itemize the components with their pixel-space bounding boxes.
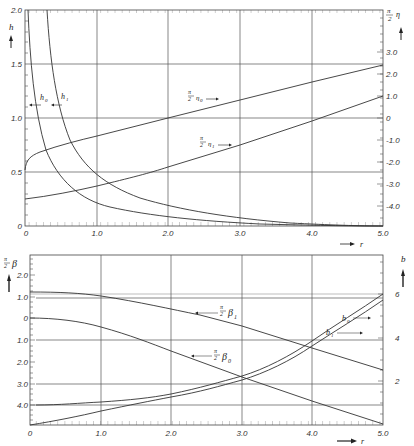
svg-text:η: η bbox=[396, 10, 400, 19]
svg-text:-4.0: -4.0 bbox=[386, 202, 400, 211]
bottom-y-left-ticks: 2.0 1.0 0 1.0 2.0 3.0 4.0 bbox=[16, 271, 29, 410]
svg-text:0: 0 bbox=[28, 429, 33, 438]
svg-text:2: 2 bbox=[388, 15, 392, 23]
svg-text:3.0: 3.0 bbox=[236, 429, 248, 438]
svg-text:1: 1 bbox=[212, 144, 215, 149]
top-x-minor-ticks-upper bbox=[25, 10, 383, 13]
top-x-ticks: 0 1.0 2.0 3.0 4.0 5.0 bbox=[24, 229, 389, 238]
svg-text:2: 2 bbox=[220, 311, 223, 317]
svg-text:-3.0: -3.0 bbox=[386, 180, 400, 189]
svg-text:2.0: 2.0 bbox=[164, 429, 177, 438]
svg-text:5.0: 5.0 bbox=[377, 229, 389, 238]
svg-text:4.0: 4.0 bbox=[306, 229, 318, 238]
svg-text:1.0: 1.0 bbox=[11, 114, 23, 123]
right-arrow-icon bbox=[351, 439, 357, 444]
svg-text:1: 1 bbox=[234, 314, 237, 320]
svg-text:1: 1 bbox=[66, 97, 69, 102]
svg-text:4.0: 4.0 bbox=[17, 401, 29, 410]
svg-text:1.0: 1.0 bbox=[386, 92, 398, 101]
svg-text:2: 2 bbox=[200, 142, 203, 148]
svg-text:3.0: 3.0 bbox=[386, 48, 398, 57]
svg-text:π: π bbox=[4, 256, 8, 262]
svg-text:0: 0 bbox=[24, 314, 29, 323]
svg-text:b: b bbox=[326, 328, 330, 337]
svg-text:π: π bbox=[214, 348, 218, 354]
svg-text:h: h bbox=[40, 93, 44, 102]
bottom-x-minor-ticks bbox=[30, 421, 383, 425]
bottom-x-ticks: 0 1.0 2.0 3.0 4.0 5.0 bbox=[28, 429, 389, 438]
svg-text:0.5: 0.5 bbox=[11, 168, 23, 177]
top-right-up-arrow-icon bbox=[399, 27, 403, 40]
top-right-axis-label: π 2 η bbox=[386, 7, 400, 23]
bottom-y-right-ticks: 6 4 2 bbox=[394, 290, 400, 386]
svg-text:h: h bbox=[61, 92, 65, 101]
svg-text:β: β bbox=[227, 307, 233, 318]
label-beta1: π 2 β 1 bbox=[195, 304, 237, 320]
svg-text:0: 0 bbox=[24, 229, 29, 238]
svg-text:1.0: 1.0 bbox=[95, 429, 107, 438]
top-x-axis-label: r bbox=[340, 240, 364, 249]
label-eta1: π 2 η 1 bbox=[200, 135, 232, 149]
svg-text:1.0: 1.0 bbox=[17, 336, 29, 345]
bottom-y-axis-label-beta: π 2 β bbox=[4, 256, 17, 269]
svg-text:3.0: 3.0 bbox=[234, 229, 246, 238]
figure: 0 0.5 1.0 1.5 2.0 0 1.0 2.0 3.0 4.0 5.0 … bbox=[0, 0, 414, 446]
top-y-right-ticks: 3.0 2.0 1.0 0 -1.0 -2.0 -3.0 -4.0 bbox=[385, 48, 400, 211]
svg-text:4.0: 4.0 bbox=[306, 429, 318, 438]
svg-text:2.0: 2.0 bbox=[16, 271, 29, 280]
svg-text:4: 4 bbox=[395, 334, 400, 343]
svg-text:1.5: 1.5 bbox=[11, 60, 23, 69]
label-h1: h 1 bbox=[51, 92, 69, 107]
label-eta0: π 2 η 0 bbox=[188, 89, 219, 103]
svg-text:1.0: 1.0 bbox=[91, 229, 103, 238]
bottom-y-up-arrow-icon bbox=[7, 274, 11, 292]
svg-text:6: 6 bbox=[395, 290, 400, 299]
svg-text:2: 2 bbox=[188, 96, 191, 102]
bottom-right-axis-label-b: b bbox=[401, 254, 406, 264]
bottom-y-right-minor-ticks bbox=[378, 262, 383, 414]
svg-text:0: 0 bbox=[347, 319, 350, 324]
label-h0: h 0 bbox=[29, 93, 48, 107]
curve-b1 bbox=[30, 300, 383, 425]
bottom-chart: 2.0 1.0 0 1.0 2.0 3.0 4.0 0 1.0 2.0 3.0 … bbox=[4, 254, 406, 446]
svg-text:-2.0: -2.0 bbox=[386, 158, 400, 167]
svg-text:3.0: 3.0 bbox=[17, 380, 29, 389]
svg-text:β: β bbox=[11, 258, 17, 269]
svg-text:2.0: 2.0 bbox=[10, 6, 23, 15]
svg-text:0: 0 bbox=[386, 114, 391, 123]
svg-text:π: π bbox=[188, 89, 192, 95]
svg-text:-1.0: -1.0 bbox=[386, 136, 400, 145]
label-b0: b 0 bbox=[342, 314, 371, 324]
top-y-axis-label-h: h bbox=[9, 22, 14, 32]
svg-text:2: 2 bbox=[4, 263, 7, 269]
svg-text:π: π bbox=[387, 7, 391, 15]
svg-text:2: 2 bbox=[394, 377, 400, 386]
bottom-right-up-arrow-icon bbox=[401, 269, 405, 287]
svg-text:π: π bbox=[200, 135, 204, 141]
label-b1: b 1 bbox=[326, 328, 363, 338]
bottom-x-axis-label: r bbox=[337, 437, 365, 446]
svg-text:0: 0 bbox=[200, 98, 203, 103]
bottom-y-left-minor-ticks bbox=[30, 259, 35, 420]
svg-text:0: 0 bbox=[18, 222, 23, 231]
curve-beta1 bbox=[30, 292, 383, 370]
svg-text:5.0: 5.0 bbox=[377, 429, 389, 438]
svg-text:1: 1 bbox=[331, 333, 334, 338]
label-beta0: π 2 β 0 bbox=[191, 348, 231, 364]
bottom-grid bbox=[30, 255, 383, 425]
top-chart: 0 0.5 1.0 1.5 2.0 0 1.0 2.0 3.0 4.0 5.0 … bbox=[9, 6, 403, 249]
svg-text:π: π bbox=[220, 304, 224, 310]
svg-text:2: 2 bbox=[214, 355, 217, 361]
svg-text:b: b bbox=[342, 314, 346, 323]
svg-text:β: β bbox=[221, 351, 227, 362]
svg-text:1.0: 1.0 bbox=[17, 293, 29, 302]
svg-text:2.0: 2.0 bbox=[16, 358, 29, 367]
curve-eta1 bbox=[25, 96, 383, 199]
svg-text:0: 0 bbox=[228, 358, 231, 364]
svg-text:0: 0 bbox=[45, 98, 48, 103]
svg-text:2.0: 2.0 bbox=[161, 229, 174, 238]
top-y-up-arrow-icon bbox=[9, 35, 13, 48]
svg-text:2.0: 2.0 bbox=[385, 70, 398, 79]
svg-text:r: r bbox=[360, 240, 364, 249]
svg-text:r: r bbox=[361, 437, 365, 446]
